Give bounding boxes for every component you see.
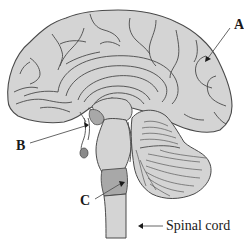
label-spinal-cord: Spinal cord bbox=[138, 218, 230, 233]
label-b: B bbox=[16, 122, 89, 153]
label-a-text: A bbox=[234, 17, 244, 32]
label-b-text: B bbox=[16, 138, 25, 153]
brain-diagram: A B C Spinal cord bbox=[0, 0, 244, 242]
brainstem bbox=[96, 119, 132, 173]
spinal-cord bbox=[104, 194, 126, 238]
label-c-text: C bbox=[80, 193, 90, 208]
label-spinal-cord-text: Spinal cord bbox=[166, 218, 230, 233]
